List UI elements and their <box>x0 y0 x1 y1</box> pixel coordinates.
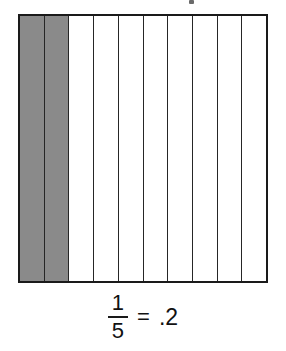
scan-artifact-speck <box>189 0 194 4</box>
fraction-numerator: 1 <box>108 291 128 315</box>
model-cell-9 <box>218 16 243 281</box>
model-cell-shaded-1 <box>20 16 45 281</box>
figure-root: 1 5 = .2 <box>0 0 286 351</box>
model-cell-5 <box>119 16 144 281</box>
model-cell-3 <box>69 16 94 281</box>
model-cell-6 <box>144 16 169 281</box>
model-cell-7 <box>168 16 193 281</box>
stacked-fraction: 1 5 <box>108 291 128 343</box>
model-cell-4 <box>94 16 119 281</box>
fraction-area-model <box>18 14 268 283</box>
model-cell-shaded-2 <box>45 16 70 281</box>
decimal-value: .2 <box>159 304 178 331</box>
model-cell-8 <box>193 16 218 281</box>
model-cell-10 <box>242 16 266 281</box>
fraction-caption: 1 5 = .2 <box>0 288 286 346</box>
fraction-denominator: 5 <box>108 319 128 343</box>
equals-sign: = <box>137 304 150 331</box>
